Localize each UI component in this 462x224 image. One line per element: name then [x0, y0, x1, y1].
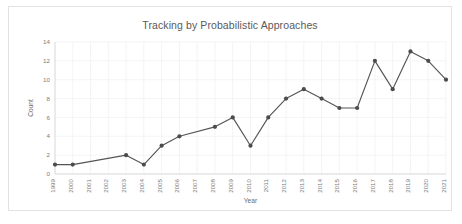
svg-text:2018: 2018: [387, 178, 394, 192]
data-point: [373, 59, 377, 63]
svg-text:4: 4: [47, 132, 51, 139]
data-point: [53, 162, 57, 166]
data-point: [444, 78, 448, 82]
svg-text:10: 10: [43, 76, 50, 83]
svg-text:2005: 2005: [156, 178, 163, 192]
data-point: [231, 115, 235, 119]
svg-text:2010: 2010: [245, 178, 252, 192]
data-point: [408, 49, 412, 53]
svg-text:12: 12: [43, 57, 50, 64]
svg-text:2021: 2021: [440, 178, 447, 192]
svg-text:2011: 2011: [262, 178, 269, 192]
data-point: [71, 162, 75, 166]
svg-text:0: 0: [47, 170, 51, 177]
data-point: [266, 115, 270, 119]
svg-text:2007: 2007: [191, 178, 198, 192]
svg-text:2015: 2015: [333, 178, 340, 192]
svg-text:2020: 2020: [422, 178, 429, 192]
svg-text:2008: 2008: [209, 178, 216, 192]
data-point: [213, 125, 217, 129]
svg-text:2012: 2012: [280, 178, 287, 192]
data-point: [355, 106, 359, 110]
svg-text:2019: 2019: [404, 178, 411, 192]
svg-text:2009: 2009: [227, 178, 234, 192]
svg-text:2: 2: [47, 151, 51, 158]
gridlines: [55, 42, 446, 174]
svg-text:2003: 2003: [120, 178, 127, 192]
data-point: [391, 87, 395, 91]
data-point: [284, 96, 288, 100]
data-point: [426, 59, 430, 63]
x-axis-tick-labels: 1999200020012002200320042005200620072008…: [49, 178, 447, 192]
svg-text:2017: 2017: [369, 178, 376, 192]
data-point: [248, 144, 252, 148]
svg-text:14: 14: [43, 38, 50, 45]
chart-svg: 02468101214 1999200020012002200320042005…: [9, 7, 453, 212]
line-chart: 02468101214 1999200020012002200320042005…: [9, 7, 453, 212]
y-axis-tick-labels: 02468101214: [43, 38, 50, 177]
svg-text:1999: 1999: [49, 178, 56, 192]
svg-text:2001: 2001: [85, 178, 92, 192]
data-point: [319, 96, 323, 100]
data-point: [177, 134, 181, 138]
svg-text:2013: 2013: [298, 178, 305, 192]
data-point: [337, 106, 341, 110]
data-point: [124, 153, 128, 157]
svg-text:2016: 2016: [351, 178, 358, 192]
data-point: [160, 144, 164, 148]
svg-text:2006: 2006: [173, 178, 180, 192]
svg-text:2014: 2014: [316, 178, 323, 192]
data-point: [142, 162, 146, 166]
data-point: [302, 87, 306, 91]
svg-text:8: 8: [47, 95, 51, 102]
x-axis-title: Year: [244, 197, 258, 204]
svg-text:2004: 2004: [138, 178, 145, 192]
chart-card: Tracking by Probabilistic Approaches 024…: [8, 6, 452, 211]
y-axis-title: Count: [27, 99, 34, 117]
svg-text:6: 6: [47, 114, 51, 121]
svg-text:2000: 2000: [67, 178, 74, 192]
svg-text:2002: 2002: [102, 178, 109, 192]
